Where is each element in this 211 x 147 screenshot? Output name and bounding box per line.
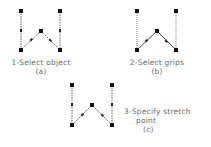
caption-c-text-line2: point — [124, 116, 206, 125]
grip-square — [90, 103, 94, 107]
grip-square — [19, 48, 23, 52]
grip-square — [70, 123, 74, 127]
caption-c-text-line1: 3-Specify stretch — [124, 107, 206, 116]
grip-square — [110, 123, 114, 127]
figure-b-polyline — [135, 9, 178, 52]
caption-a-tag: (a) — [2, 67, 80, 76]
caption-b-tag: (b) — [118, 67, 196, 76]
grip-square — [58, 9, 62, 13]
figure-a-polyline — [19, 9, 62, 52]
grip-square — [19, 9, 23, 13]
figure-c-polyline — [70, 83, 114, 127]
grip-square — [58, 48, 62, 52]
caption-a-text: 1-Select object — [2, 58, 80, 67]
caption-c: 3-Specify stretch point (c) — [124, 107, 206, 134]
grip-square — [155, 29, 159, 33]
grip-square — [135, 9, 139, 13]
grip-square — [39, 29, 43, 33]
grip-square — [70, 83, 74, 87]
caption-c-tag: (c) — [124, 125, 206, 134]
caption-b: 2-Select grips (b) — [118, 58, 196, 76]
grip-square — [174, 9, 178, 13]
grip-square — [135, 48, 139, 52]
grip-square — [110, 83, 114, 87]
grip-square — [174, 48, 178, 52]
caption-a: 1-Select object (a) — [2, 58, 80, 76]
caption-b-text: 2-Select grips — [118, 58, 196, 67]
